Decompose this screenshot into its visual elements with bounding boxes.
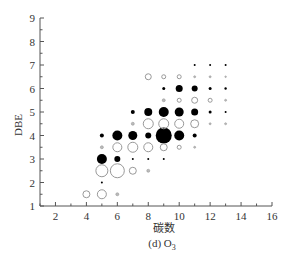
axes xyxy=(40,18,272,206)
x-tick-label: 6 xyxy=(115,210,121,222)
bubble-filled xyxy=(131,110,135,114)
bubble-open xyxy=(113,143,122,152)
bubble-open xyxy=(162,75,166,79)
bubbles xyxy=(83,64,227,199)
bubble-filled xyxy=(174,131,184,141)
bubble-filled xyxy=(209,87,212,90)
bubble-filled xyxy=(224,87,226,89)
bubble-open xyxy=(83,191,90,198)
y-tick-label: 3 xyxy=(30,153,36,165)
bubble-filled xyxy=(193,134,197,138)
bubble-filled xyxy=(114,156,120,162)
bubble-filled xyxy=(163,158,165,160)
bubble-open xyxy=(177,98,181,102)
caption: (d) O3 xyxy=(148,237,176,252)
bubble-open xyxy=(160,144,167,151)
bubble-open xyxy=(177,75,181,79)
bubble-filled xyxy=(192,86,198,92)
bubble-open xyxy=(191,120,199,128)
bubble-open xyxy=(131,122,134,125)
bubble-filled xyxy=(144,108,152,116)
bubble-filled xyxy=(175,108,184,117)
bubble-open xyxy=(96,165,108,177)
x-tick-label: 4 xyxy=(84,210,90,222)
x-tick-label: 8 xyxy=(146,210,152,222)
y-tick-label: 5 xyxy=(30,106,36,118)
bubble-open xyxy=(144,143,153,152)
bubble-open xyxy=(175,119,184,128)
bubble-open xyxy=(194,76,196,78)
x-axis-label: 碳数 xyxy=(153,221,175,234)
bubble-filled xyxy=(225,111,227,113)
bubble-filled xyxy=(191,109,198,116)
bubble-filled xyxy=(176,85,183,92)
bubble-open xyxy=(110,164,124,178)
y-tick-label: 2 xyxy=(30,177,36,189)
bubble-open xyxy=(209,123,211,125)
x-tick-label: 12 xyxy=(205,210,216,222)
bubble-open xyxy=(97,190,106,199)
bubble-filled xyxy=(145,133,151,139)
y-tick-label: 1 xyxy=(30,200,36,212)
bubble-open xyxy=(209,76,211,78)
bubble-open xyxy=(225,123,227,125)
bubble-filled xyxy=(97,154,107,164)
bubble-filled xyxy=(159,107,169,117)
bubble-filled xyxy=(101,182,103,184)
bubble-filled xyxy=(209,64,211,66)
x-tick-label: 2 xyxy=(53,210,59,222)
bubble-filled xyxy=(100,134,104,138)
x-tick-label: 16 xyxy=(267,210,279,222)
bubble-open xyxy=(159,119,169,129)
bubble-filled xyxy=(156,128,172,144)
bubble-filled xyxy=(112,131,122,141)
bubble-open xyxy=(177,145,181,149)
tick-labels: 246810121416123456789 xyxy=(30,12,279,222)
y-axis-label: DBE xyxy=(12,114,24,136)
bubble-open xyxy=(116,193,119,196)
bubble-open xyxy=(225,99,227,101)
bubble-open xyxy=(162,99,165,102)
bubble-filled xyxy=(209,111,212,114)
y-tick-label: 8 xyxy=(30,36,36,48)
bubble-open xyxy=(100,146,103,149)
y-tick-label: 7 xyxy=(30,59,36,71)
bubble-open xyxy=(147,169,150,172)
x-tick-label: 14 xyxy=(236,210,248,222)
bubble-filled xyxy=(128,131,137,140)
bubble-filled xyxy=(162,87,165,90)
bubble-open xyxy=(145,74,151,80)
bubble-open xyxy=(143,119,153,129)
y-tick-label: 4 xyxy=(30,130,36,142)
y-tick-label: 9 xyxy=(30,12,36,24)
bubble-open xyxy=(194,146,196,148)
y-tick-label: 6 xyxy=(30,83,36,95)
bubble-filled xyxy=(225,64,227,66)
bubble-open xyxy=(192,97,198,103)
bubble-open xyxy=(128,142,138,152)
bubble-filled xyxy=(132,158,134,160)
bubble-filled xyxy=(147,158,149,160)
bubble-filled xyxy=(194,64,196,66)
bubble-open xyxy=(225,76,227,78)
bubble-open xyxy=(208,98,212,102)
bubble-open xyxy=(129,167,136,174)
x-tick-label: 10 xyxy=(174,210,186,222)
bubble-chart: 246810121416123456789 DBE 碳数 (d) O3 xyxy=(0,0,293,270)
